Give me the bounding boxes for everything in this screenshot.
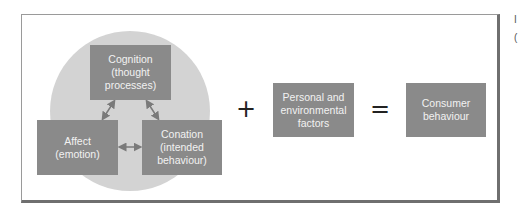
affect-box: Affect (emotion) <box>37 120 118 175</box>
factors-line-2: environmental <box>281 104 347 117</box>
plus-sign: + <box>236 97 256 121</box>
cognition-label: Cognition <box>108 53 152 66</box>
clipped-text-1: I <box>514 14 517 26</box>
cognition-sublabel-2: processes) <box>105 79 156 92</box>
personal-environmental-factors-box: Personal and environmental factors <box>273 83 354 137</box>
consumer-behaviour-box: Consumer behaviour <box>406 83 486 137</box>
conation-sublabel-1: (intended <box>160 141 204 154</box>
result-line-1: Consumer <box>422 97 470 110</box>
affect-label: Affect <box>64 135 91 148</box>
conation-box: Conation (intended behaviour) <box>142 120 222 175</box>
cognition-box: Cognition (thought processes) <box>90 45 171 100</box>
cognition-sublabel-1: (thought <box>111 66 150 79</box>
affect-sublabel: (emotion) <box>55 148 99 161</box>
factors-line-1: Personal and <box>283 91 345 104</box>
conation-sublabel-2: behaviour) <box>157 154 207 167</box>
conation-label: Conation <box>161 128 203 141</box>
result-line-2: behaviour <box>423 110 469 123</box>
equals-sign: = <box>370 97 390 121</box>
factors-line-3: factors <box>298 117 330 130</box>
clipped-text-2: ( <box>514 32 517 44</box>
